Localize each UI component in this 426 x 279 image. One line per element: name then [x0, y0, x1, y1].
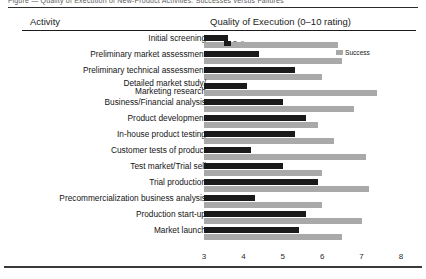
chart-row: Customer tests of product	[0, 146, 426, 162]
top-rule	[8, 7, 418, 8]
figure-container: Figure — Quality of Execution of New-Pro…	[0, 0, 426, 279]
activity-label: Product development	[128, 114, 206, 123]
chart-row: Preliminary market assessment	[0, 50, 426, 66]
bar-success	[204, 170, 322, 176]
activity-label: Customer tests of product	[111, 146, 206, 155]
figure-caption: Figure — Quality of Execution of New-Pro…	[8, 0, 418, 7]
bar-failure	[204, 179, 318, 185]
activity-label: Initial screening	[148, 34, 206, 43]
header-rule	[22, 30, 416, 31]
bar-success	[204, 74, 322, 80]
activity-label: Market launch	[154, 226, 206, 235]
bar-failure	[204, 163, 283, 169]
chart-row: Test market/Trial sell	[0, 162, 426, 178]
activity-label: Preliminary market assessment	[90, 50, 206, 59]
activity-label: Precommercialization business analysis	[59, 194, 206, 203]
bar-failure	[204, 227, 299, 233]
bar-failure	[204, 211, 306, 217]
chart-row: Trial production	[0, 178, 426, 194]
activity-label: In-house product testing	[117, 130, 206, 139]
chart-plot-area: Initial screeningPreliminary market asse…	[0, 34, 426, 249]
bar-success	[204, 234, 342, 240]
figure-caption-text: Figure — Quality of Execution of New-Pro…	[8, 0, 418, 5]
bar-success	[204, 138, 334, 144]
chart-row: Precommercialization business analysis	[0, 194, 426, 210]
bar-failure	[204, 67, 295, 73]
activity-label: Preliminary technical assessment	[83, 66, 206, 75]
bar-success	[204, 122, 318, 128]
chart-row: Market launch	[0, 226, 426, 242]
activity-label: Trial production	[149, 178, 206, 187]
chart-row: Detailed market study/Marketing research	[0, 82, 426, 98]
x-axis-tick: 3	[196, 252, 212, 261]
x-axis-tick: 5	[275, 252, 291, 261]
bar-failure	[204, 131, 295, 137]
legend-swatch-success	[336, 50, 343, 55]
bar-success	[204, 106, 354, 112]
bar-success	[204, 202, 322, 208]
bar-success	[204, 186, 369, 192]
x-axis-tick: 4	[235, 252, 251, 261]
bar-failure	[204, 99, 283, 105]
activity-label: Test market/Trial sell	[130, 162, 206, 171]
column-header-quality: Quality of Execution (0–10 rating)	[210, 16, 351, 27]
bar-failure	[204, 51, 259, 57]
bar-failure	[204, 195, 255, 201]
bar-failure	[204, 115, 306, 121]
bar-success	[204, 218, 362, 224]
legend-swatch-failure	[224, 41, 231, 46]
bar-success	[204, 58, 342, 64]
activity-label: Detailed market study/Marketing research	[123, 79, 206, 96]
x-axis: 345678	[0, 252, 426, 266]
chart-row: Business/Financial analysis	[0, 98, 426, 114]
chart-row: Initial screening	[0, 34, 426, 50]
chart-row: Production start-up	[0, 210, 426, 226]
bar-success	[204, 90, 377, 96]
chart-row: Product development	[0, 114, 426, 130]
bar-failure	[204, 147, 251, 153]
bottom-rule	[4, 266, 422, 268]
chart-row: Preliminary technical assessment	[0, 66, 426, 82]
x-axis-tick: 7	[354, 252, 370, 261]
column-header-activity: Activity	[30, 16, 60, 27]
bar-failure	[204, 83, 247, 89]
chart-row: In-house product testing	[0, 130, 426, 146]
bar-success	[204, 154, 366, 160]
activity-label: Business/Financial analysis	[105, 98, 206, 107]
activity-label: Production start-up	[136, 210, 206, 219]
x-axis-tick: 6	[314, 252, 330, 261]
x-axis-tick: 8	[393, 252, 409, 261]
